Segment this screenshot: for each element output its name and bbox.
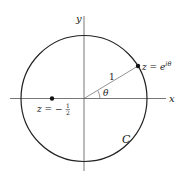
x-axis-label: x: [169, 93, 175, 104]
y-axis-label: y: [75, 13, 82, 24]
point-on-circle-dot: [136, 64, 140, 68]
point-on-circle-label: z = eiθ: [141, 60, 171, 72]
interior-point-dot: [50, 96, 54, 100]
radius-line: [84, 66, 138, 99]
complex-plane-diagram: x y C 1 θ z = eiθ z = − 1 2: [0, 0, 184, 178]
angle-arc: [98, 91, 100, 99]
radius-label: 1: [109, 72, 115, 82]
angle-label: θ: [103, 88, 109, 98]
contour-label: C: [122, 133, 131, 146]
fraction-numerator: 1: [66, 102, 70, 109]
fraction-denominator: 2: [66, 109, 70, 116]
interior-point-label: z = −: [36, 104, 63, 114]
